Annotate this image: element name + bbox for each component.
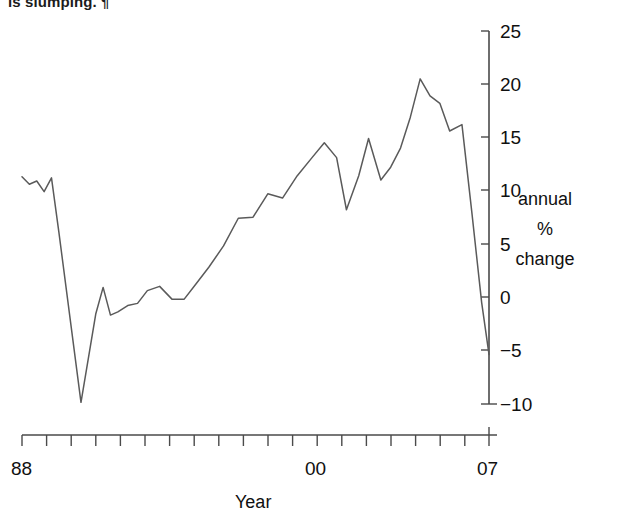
- x-axis-title: Year: [235, 492, 271, 512]
- y-axis-title-line-1: annual: [518, 189, 572, 209]
- x-axis-tick-labels: 88 00 07: [11, 458, 498, 479]
- y-axis-tick-labels: 25 20 15 10 5 0 −5 −10: [500, 21, 532, 415]
- x-tick-label-00: 00: [305, 458, 326, 479]
- y-tick-label: −5: [500, 340, 522, 361]
- y-tick-label: 15: [500, 127, 521, 148]
- y-tick-label: 25: [500, 21, 521, 42]
- y-axis-title-line-2: %: [537, 219, 553, 239]
- x-axis-ticks: [22, 427, 489, 446]
- y-tick-label: 0: [500, 287, 511, 308]
- x-tick-label-88: 88: [11, 458, 32, 479]
- y-axis-title-line-3: change: [515, 249, 574, 269]
- y-axis-title: annual % change: [515, 189, 574, 269]
- line-chart: 25 20 15 10 5 0 −5 −10: [0, 0, 624, 517]
- data-series-line: [22, 79, 489, 402]
- x-tick-label-07: 07: [477, 458, 498, 479]
- y-tick-label: 20: [500, 74, 521, 95]
- chart-page: is slumping. ¶ 25 20 15 10 5 0 −5 −10: [0, 0, 624, 517]
- y-tick-label: −10: [500, 394, 532, 415]
- y-tick-label: 5: [500, 234, 511, 255]
